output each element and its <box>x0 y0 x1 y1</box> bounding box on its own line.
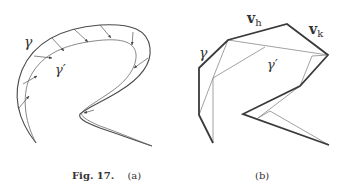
polygon-gamma-b <box>199 24 329 145</box>
curve-gamma-prime-a <box>25 40 152 146</box>
label-vh: vh <box>246 10 262 28</box>
label-vk: vk <box>308 21 324 39</box>
figure-caption: Fig. 17. (a) <box>72 170 141 181</box>
figure-number: Fig. 17. <box>72 170 114 181</box>
panel-b-caption: (b) <box>255 170 269 181</box>
label-gamma-prime-b: γ′ <box>267 57 278 72</box>
triangulation-gamma-prime <box>199 40 329 145</box>
figure-canvas: γ γ′ γ γ′ vh vk <box>0 0 348 193</box>
label-gamma-a: γ <box>24 34 33 50</box>
panel-b-diagram: γ γ′ vh vk <box>199 10 329 145</box>
panel-a-label: (a) <box>127 170 141 181</box>
label-gamma-prime-a: γ′ <box>55 62 66 77</box>
panel-a-diagram: γ γ′ <box>17 25 152 146</box>
curve-gamma-a <box>17 25 152 146</box>
panel-b-label: (b) <box>255 170 269 181</box>
label-gamma-b: γ <box>199 45 208 61</box>
